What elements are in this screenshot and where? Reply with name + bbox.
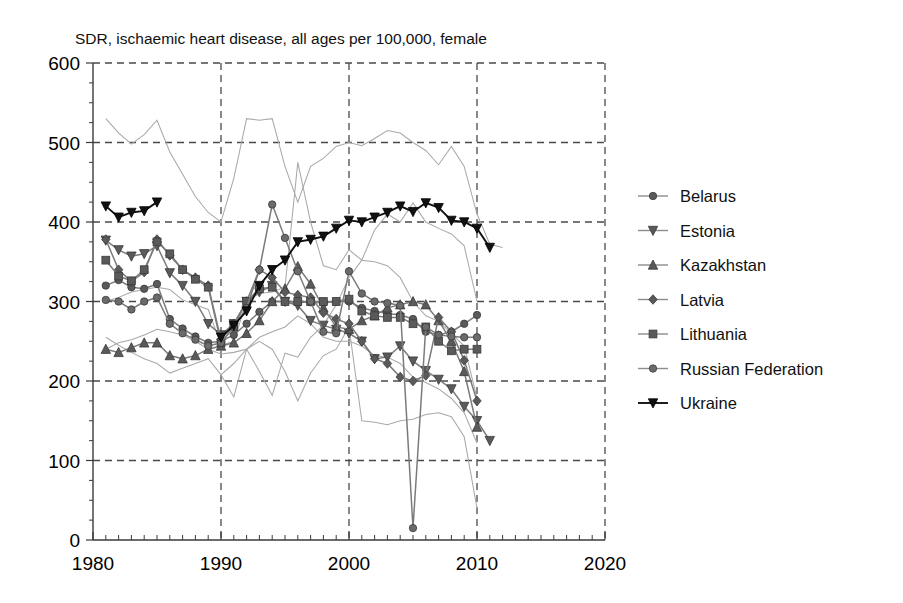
data-point-marker [358, 290, 365, 297]
data-point-marker [371, 298, 378, 305]
data-point-marker [179, 330, 186, 337]
data-point-marker [649, 365, 656, 372]
y-tick-label: 0 [69, 530, 80, 551]
data-point-marker [140, 266, 148, 274]
legend-item-label: Lithuania [680, 325, 748, 343]
data-point-marker [153, 238, 161, 246]
y-tick-label: 400 [48, 212, 80, 233]
y-tick-label: 500 [48, 133, 80, 154]
data-point-marker [473, 345, 481, 353]
data-point-marker [294, 298, 302, 306]
data-point-marker [141, 285, 148, 292]
data-point-marker [435, 331, 442, 338]
legend-item-label: Belarus [680, 187, 736, 205]
legend-item-label: Ukraine [680, 394, 737, 412]
data-point-marker [345, 295, 353, 303]
data-point-marker [384, 299, 391, 306]
y-tick-label: 200 [48, 371, 80, 392]
data-point-marker [460, 345, 468, 353]
data-point-marker [333, 330, 340, 337]
data-point-marker [320, 328, 327, 335]
data-point-marker [358, 307, 366, 315]
x-tick-label: 1990 [200, 553, 242, 574]
data-point-marker [461, 334, 468, 341]
data-point-marker [192, 336, 199, 343]
data-point-marker [128, 277, 136, 285]
x-tick-label: 2000 [328, 553, 370, 574]
data-point-marker [307, 298, 314, 305]
data-point-marker [115, 298, 122, 305]
data-point-marker [409, 320, 417, 328]
data-point-marker [345, 268, 352, 275]
data-point-marker [269, 201, 276, 208]
data-point-marker [397, 302, 404, 309]
data-point-marker [371, 312, 379, 320]
data-point-marker [256, 308, 263, 315]
data-point-marker [102, 282, 109, 289]
data-point-marker [115, 272, 123, 280]
data-point-marker [384, 314, 392, 322]
data-point-marker [141, 298, 148, 305]
data-point-marker [128, 306, 135, 313]
data-point-marker [192, 275, 200, 283]
data-point-marker [153, 280, 160, 287]
y-tick-label: 100 [48, 451, 80, 472]
data-point-marker [268, 283, 276, 291]
legend-item-label: Kazakhstan [680, 256, 766, 274]
x-tick-label: 2010 [456, 553, 498, 574]
data-point-marker [153, 294, 160, 301]
data-point-marker [102, 256, 110, 264]
data-point-marker [649, 330, 657, 338]
data-point-marker [294, 268, 301, 275]
y-tick-label: 600 [48, 53, 80, 74]
data-point-marker [281, 234, 288, 241]
data-point-marker [473, 311, 480, 318]
data-point-marker [205, 342, 212, 349]
data-point-marker [166, 250, 174, 258]
data-point-marker [649, 192, 656, 199]
chart-title: SDR, ischaemic heart disease, all ages p… [75, 30, 487, 47]
data-point-marker [281, 298, 289, 306]
data-point-marker [179, 266, 187, 274]
data-point-marker [473, 334, 480, 341]
chart-figure: SDR, ischaemic heart disease, all ages p… [0, 0, 903, 603]
data-point-marker [448, 347, 456, 355]
data-point-marker [332, 298, 340, 306]
data-point-marker [461, 320, 468, 327]
legend-item-label: Estonia [680, 222, 736, 240]
legend-item-label: Russian Federation [680, 360, 823, 378]
data-point-marker [422, 323, 429, 330]
data-point-marker [243, 320, 250, 327]
data-point-marker [102, 296, 109, 303]
data-point-marker [320, 298, 328, 306]
x-tick-label: 1980 [72, 553, 114, 574]
data-point-marker [166, 320, 173, 327]
data-point-marker [256, 266, 263, 273]
x-tick-label: 2020 [584, 553, 626, 574]
data-point-marker [409, 524, 416, 531]
y-tick-label: 300 [48, 292, 80, 313]
data-point-marker [448, 333, 455, 340]
legend-item-label: Latvia [680, 291, 725, 309]
data-point-marker [204, 283, 212, 291]
